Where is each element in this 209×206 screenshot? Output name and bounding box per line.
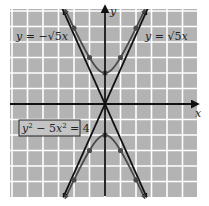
data-point — [71, 177, 76, 182]
x-axis-label: x — [195, 107, 202, 120]
data-point — [118, 148, 123, 153]
data-point — [133, 177, 138, 182]
data-point — [118, 55, 123, 60]
data-point — [71, 25, 76, 30]
asymptote-positive-label: y = √5x — [144, 30, 188, 43]
data-point — [87, 55, 92, 60]
asymptote-negative-label: y = −√5x — [15, 30, 69, 43]
hyperbola-graph: y x y = −√5x y = √5x y2 − 5x2 = 4 — [0, 0, 209, 206]
y-axis-label: y — [109, 5, 117, 18]
data-point — [133, 25, 138, 30]
data-point — [87, 148, 92, 153]
equation-box: y2 − 5x2 = 4 — [19, 120, 90, 136]
